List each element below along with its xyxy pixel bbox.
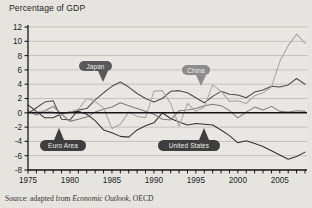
y-tick-label: -2 <box>15 123 23 132</box>
x-tick-label: 2005 <box>271 176 290 185</box>
y-tick-label: 0 <box>17 109 22 118</box>
y-tick-label: -8 <box>15 166 23 175</box>
callout-pointer-icon <box>199 128 209 140</box>
callout-label: Japan <box>86 63 104 70</box>
source-prefix: Source: adapted from <box>5 194 72 203</box>
line-chart: 121086420-2-4-6-819751980198519901995200… <box>0 0 312 208</box>
callout-united-states: United States <box>158 140 220 151</box>
y-tick-label: 10 <box>13 37 23 46</box>
callout-china: China <box>182 65 210 75</box>
source-note: Source: adapted from Economic Outlook, O… <box>5 194 153 203</box>
x-tick-label: 1990 <box>145 176 164 185</box>
y-tick-label: 2 <box>17 94 22 103</box>
callout-euro-area: Euro Area <box>40 140 86 151</box>
figure-container: 121086420-2-4-6-819751980198519901995200… <box>0 0 312 208</box>
callout-japan: Japan <box>79 61 112 71</box>
source-publication: Economic Outlook <box>72 194 129 203</box>
y-tick-label: 8 <box>17 52 22 61</box>
x-tick-label: 1995 <box>187 176 206 185</box>
y-tick-label: 12 <box>13 23 23 32</box>
callout-label: United States <box>169 142 209 149</box>
y-tick-label: -6 <box>15 152 23 161</box>
y-tick-label: 6 <box>17 66 22 75</box>
callout-label: China <box>187 67 204 74</box>
y-tick-label: -4 <box>15 137 23 146</box>
x-tick-label: 2000 <box>229 176 248 185</box>
callout-pointer-icon <box>54 128 64 140</box>
page-title: Percentage of GDP <box>9 3 85 13</box>
callout-label: Euro Area <box>48 142 78 149</box>
x-tick-label: 1980 <box>61 176 80 185</box>
callout-pointer-icon <box>98 71 108 82</box>
source-suffix: , OECD <box>129 194 153 203</box>
x-tick-label: 1975 <box>19 176 38 185</box>
y-tick-label: 4 <box>17 80 22 89</box>
callout-pointer-icon <box>196 75 206 86</box>
x-tick-label: 1985 <box>103 176 122 185</box>
